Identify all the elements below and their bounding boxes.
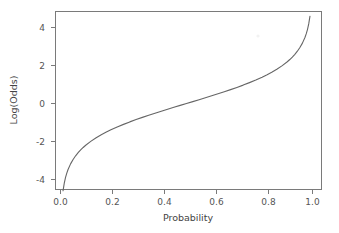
y-tick-label: 4 [39, 23, 45, 33]
logit-plot-svg: 0.0 0.2 0.4 0.6 0.8 1.0 4 2 0 -2 -4 Prob… [0, 0, 339, 233]
x-tick-label: 0.6 [209, 197, 224, 207]
x-tick-label: 0.0 [53, 197, 68, 207]
chart-figure: 0.0 0.2 0.4 0.6 0.8 1.0 4 2 0 -2 -4 Prob… [0, 0, 339, 233]
y-tick-label: -4 [36, 175, 45, 185]
scan-artifact-speck [256, 34, 259, 37]
x-axis-title: Probability [163, 212, 214, 223]
x-tick-label: 0.8 [261, 197, 276, 207]
y-axis-title: Log(Odds) [8, 76, 19, 125]
y-tick-label: 2 [39, 61, 45, 71]
y-tick-label: -2 [36, 137, 45, 147]
y-tick-label: 0 [39, 99, 45, 109]
x-tick-label: 0.2 [105, 197, 119, 207]
x-tick-label: 0.4 [157, 197, 172, 207]
x-tick-label: 1.0 [305, 197, 320, 207]
